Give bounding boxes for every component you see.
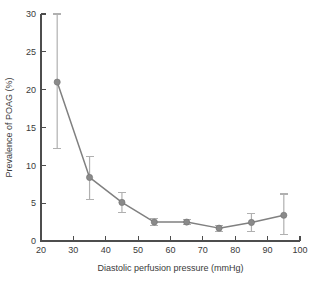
data-point-markers xyxy=(54,79,287,231)
x-tick-label: 80 xyxy=(230,245,240,255)
x-tick-label: 20 xyxy=(36,245,46,255)
y-tick-label: 10 xyxy=(26,161,36,171)
data-point-marker xyxy=(54,79,60,85)
chart-figure: 2030405060708090100 051015202530 Diastol… xyxy=(0,0,321,285)
data-point-marker xyxy=(281,212,287,218)
x-tick-label: 100 xyxy=(292,245,307,255)
data-point-marker xyxy=(86,174,92,180)
y-tick-label: 0 xyxy=(31,236,36,246)
y-tick-label: 20 xyxy=(26,85,36,95)
x-axis-label: Diastolic perfusion pressure (mmHg) xyxy=(97,263,243,273)
y-tick-label: 15 xyxy=(26,123,36,133)
x-axis-ticks: 2030405060708090100 xyxy=(36,236,308,255)
y-tick-label: 25 xyxy=(26,47,36,57)
data-point-marker xyxy=(248,219,254,225)
axes-group xyxy=(41,14,300,241)
data-point-marker xyxy=(184,219,190,225)
data-series-line xyxy=(57,82,284,228)
data-point-marker xyxy=(119,199,125,205)
x-tick-label: 30 xyxy=(68,245,78,255)
x-tick-label: 70 xyxy=(198,245,208,255)
line-chart-with-error-bars: 2030405060708090100 051015202530 Diastol… xyxy=(0,0,321,285)
y-tick-label: 30 xyxy=(26,9,36,19)
y-tick-label: 5 xyxy=(31,198,36,208)
data-point-marker xyxy=(151,219,157,225)
axis-spines xyxy=(41,14,300,241)
x-tick-label: 90 xyxy=(263,245,273,255)
y-axis-ticks: 051015202530 xyxy=(26,9,46,246)
x-tick-label: 50 xyxy=(133,245,143,255)
x-tick-label: 60 xyxy=(165,245,175,255)
data-point-marker xyxy=(216,225,222,231)
y-axis-label: Prevalence of POAG (%) xyxy=(4,77,14,177)
x-tick-label: 40 xyxy=(101,245,111,255)
error-bars-group xyxy=(53,14,288,234)
